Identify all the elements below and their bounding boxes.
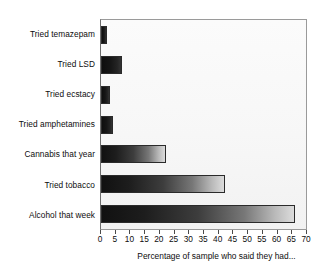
category-label-tried-lsd: Tried LSD <box>58 60 99 68</box>
category-label-tried-temazepam: Tried temazepam <box>30 30 98 38</box>
x-tick-label: 70 <box>301 235 310 243</box>
category-axis: Tried temazepam Tried LSD Tried ecstacy … <box>0 19 98 230</box>
x-axis: 0510152025303540455055606570 <box>100 230 307 250</box>
bar-row <box>101 199 306 229</box>
bar-tried-amphetamines <box>101 116 113 134</box>
x-tick-label: 30 <box>184 235 193 243</box>
plot-area <box>100 19 307 230</box>
bars-layer <box>101 20 306 229</box>
x-tick-label: 65 <box>287 235 296 243</box>
bar-row <box>101 50 306 80</box>
x-tick-label: 40 <box>213 235 222 243</box>
x-tick-label: 55 <box>257 235 266 243</box>
category-label-row: Tried tobacco <box>0 170 98 200</box>
bar-cannabis-that-year <box>101 145 166 163</box>
category-label-tried-ecstacy: Tried ecstacy <box>45 90 98 98</box>
bar-tried-ecstacy <box>101 86 110 104</box>
category-label-cannabis-that-year: Cannabis that year <box>24 150 98 158</box>
category-label-row: Alcohol that week <box>0 200 98 230</box>
x-tick-label: 10 <box>125 235 134 243</box>
bar-alcohol-that-week <box>101 205 295 223</box>
x-axis-title: Percentage of sample who said they had..… <box>100 252 333 260</box>
category-label-alcohol-that-week: Alcohol that week <box>29 211 98 219</box>
bar-tried-temazepam <box>101 26 107 44</box>
bar-tried-lsd <box>101 56 122 74</box>
category-label-row: Tried LSD <box>0 49 98 79</box>
x-tick-label: 25 <box>169 235 178 243</box>
bar-row <box>101 20 306 50</box>
category-label-tried-tobacco: Tried tobacco <box>44 181 98 189</box>
category-label-tried-amphetamines: Tried amphetamines <box>19 120 98 128</box>
category-label-row: Tried ecstacy <box>0 79 98 109</box>
x-tick-label: 60 <box>272 235 281 243</box>
bar-row <box>101 80 306 110</box>
x-tick-label: 15 <box>140 235 149 243</box>
x-tick-label: 45 <box>228 235 237 243</box>
bar-row <box>101 169 306 199</box>
bar-chart: Tried temazepam Tried LSD Tried ecstacy … <box>0 0 333 270</box>
bar-tried-tobacco <box>101 175 225 193</box>
category-label-row: Cannabis that year <box>0 140 98 170</box>
category-label-row: Tried temazepam <box>0 19 98 49</box>
category-label-row: Tried amphetamines <box>0 109 98 139</box>
x-tick-label: 0 <box>98 235 103 243</box>
bar-row <box>101 110 306 140</box>
x-tick-label: 50 <box>243 235 252 243</box>
x-tick-label: 35 <box>198 235 207 243</box>
bar-row <box>101 139 306 169</box>
x-tick-label: 5 <box>112 235 117 243</box>
x-tick-label: 20 <box>154 235 163 243</box>
